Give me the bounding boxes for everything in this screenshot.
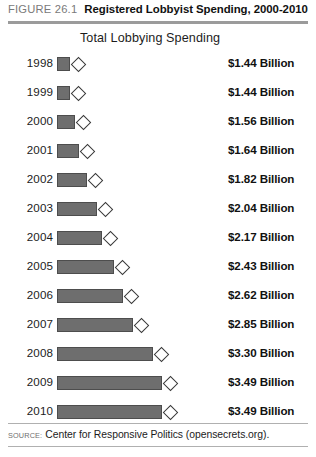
- value-label: $2.62 Billion: [228, 288, 294, 301]
- bar-group: [57, 289, 139, 303]
- bar: [57, 231, 102, 245]
- value-label: $2.17 Billion: [228, 230, 294, 243]
- bar: [57, 144, 79, 158]
- bar-group: [57, 57, 86, 71]
- bar: [57, 376, 162, 390]
- chart-row: 2005$2.43 Billion: [0, 256, 316, 278]
- value-label: $3.30 Billion: [228, 346, 294, 359]
- diamond-marker-icon: [70, 57, 86, 73]
- chart-row: 2007$2.85 Billion: [0, 314, 316, 336]
- year-label: 2009: [0, 375, 53, 388]
- year-label: 2006: [0, 288, 53, 301]
- value-label: $2.85 Billion: [228, 317, 294, 330]
- chart-row: 2001$1.64 Billion: [0, 140, 316, 162]
- year-label: 2002: [0, 172, 53, 185]
- chart-subtitle: Total Lobbying Spending: [0, 31, 300, 45]
- bar-chart-plot-area: 1998$1.44 Billion1999$1.44 Billion2000$1…: [0, 55, 316, 417]
- year-label: 2008: [0, 346, 53, 359]
- chart-row: 2003$2.04 Billion: [0, 198, 316, 220]
- bar: [57, 318, 133, 332]
- bar: [57, 86, 70, 100]
- bar-group: [57, 173, 103, 187]
- bar: [57, 202, 97, 216]
- chart-row: 2004$2.17 Billion: [0, 227, 316, 249]
- bar: [57, 57, 70, 71]
- diamond-marker-icon: [87, 173, 103, 189]
- bar-group: [57, 86, 86, 100]
- value-label: $2.04 Billion: [228, 201, 294, 214]
- bar-group: [57, 376, 178, 390]
- diamond-marker-icon: [154, 347, 170, 363]
- bar: [57, 289, 123, 303]
- header-divider: [8, 21, 308, 24]
- value-label: $1.64 Billion: [228, 143, 294, 156]
- bar-group: [57, 202, 113, 216]
- source-divider-bottom: [8, 446, 308, 447]
- chart-row: 1999$1.44 Billion: [0, 82, 316, 104]
- year-label: 1998: [0, 56, 53, 69]
- year-label: 2003: [0, 201, 53, 214]
- bar-group: [57, 231, 118, 245]
- year-label: 1999: [0, 85, 53, 98]
- chart-row: 2000$1.56 Billion: [0, 111, 316, 133]
- chart-row: 2008$3.30 Billion: [0, 343, 316, 365]
- value-label: $1.44 Billion: [228, 85, 294, 98]
- bar-group: [57, 405, 178, 419]
- source-label: SOURCE:: [8, 431, 42, 440]
- bar: [57, 173, 87, 187]
- bar: [57, 347, 153, 361]
- year-label: 2007: [0, 317, 53, 330]
- diamond-marker-icon: [163, 405, 179, 421]
- figure-header: FIGURE 26.1 Registered Lobbyist Spending…: [8, 3, 308, 19]
- diamond-marker-icon: [115, 260, 131, 276]
- year-label: 2010: [0, 404, 53, 417]
- source-divider-top: [8, 423, 308, 424]
- year-label: 2005: [0, 259, 53, 272]
- figure-number: FIGURE 26.1: [8, 3, 77, 15]
- source-note: SOURCE: Center for Responsive Politics (…: [8, 429, 308, 443]
- value-label: $2.43 Billion: [228, 259, 294, 272]
- value-label: $1.44 Billion: [228, 56, 294, 69]
- diamond-marker-icon: [134, 318, 150, 334]
- bar-group: [57, 260, 130, 274]
- diamond-marker-icon: [70, 86, 86, 102]
- figure-title: Registered Lobbyist Spending, 2000-2010: [84, 3, 307, 15]
- diamond-marker-icon: [123, 289, 139, 305]
- bar-group: [57, 347, 169, 361]
- chart-row: 2002$1.82 Billion: [0, 169, 316, 191]
- year-label: 2001: [0, 143, 53, 156]
- value-label: $1.82 Billion: [228, 172, 294, 185]
- value-label: $3.49 Billion: [228, 404, 294, 417]
- diamond-marker-icon: [79, 144, 95, 160]
- diamond-marker-icon: [97, 202, 113, 218]
- bar: [57, 260, 114, 274]
- bar-group: [57, 115, 91, 129]
- chart-row: 2010$3.49 Billion: [0, 401, 316, 423]
- year-label: 2000: [0, 114, 53, 127]
- value-label: $3.49 Billion: [228, 375, 294, 388]
- bar-group: [57, 318, 149, 332]
- figure-container: FIGURE 26.1 Registered Lobbyist Spending…: [0, 0, 316, 457]
- diamond-marker-icon: [163, 376, 179, 392]
- diamond-marker-icon: [76, 115, 92, 131]
- value-label: $1.56 Billion: [228, 114, 294, 127]
- bar: [57, 405, 162, 419]
- diamond-marker-icon: [103, 231, 119, 247]
- chart-row: 1998$1.44 Billion: [0, 53, 316, 75]
- bar-group: [57, 144, 95, 158]
- bar: [57, 115, 75, 129]
- source-text: Center for Responsive Politics (opensecr…: [45, 429, 269, 440]
- chart-row: 2009$3.49 Billion: [0, 372, 316, 394]
- year-label: 2004: [0, 230, 53, 243]
- chart-row: 2006$2.62 Billion: [0, 285, 316, 307]
